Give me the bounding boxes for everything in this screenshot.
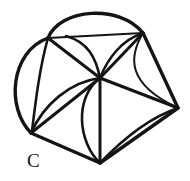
figure-canvas: C	[0, 0, 190, 181]
figure-label-c: C	[27, 151, 40, 170]
outer-right-lower	[100, 108, 178, 163]
spoke-hub-bottom-left	[31, 78, 100, 133]
chord-upper-left-to-top-right	[48, 33, 143, 38]
edge-group	[15, 13, 178, 163]
petal-arc-right-inner	[134, 33, 176, 107]
